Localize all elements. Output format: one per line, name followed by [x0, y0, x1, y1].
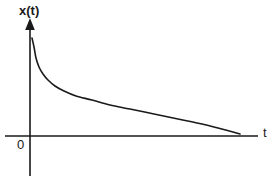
decay-curve	[32, 38, 240, 134]
y-axis-label: x(t)	[19, 4, 39, 17]
plot-canvas	[0, 0, 276, 176]
y-axis-arrow-icon	[25, 18, 35, 30]
x-axis-label: t	[263, 126, 267, 139]
figure-root: x(t) t 0	[0, 0, 276, 176]
origin-label: 0	[17, 138, 24, 151]
